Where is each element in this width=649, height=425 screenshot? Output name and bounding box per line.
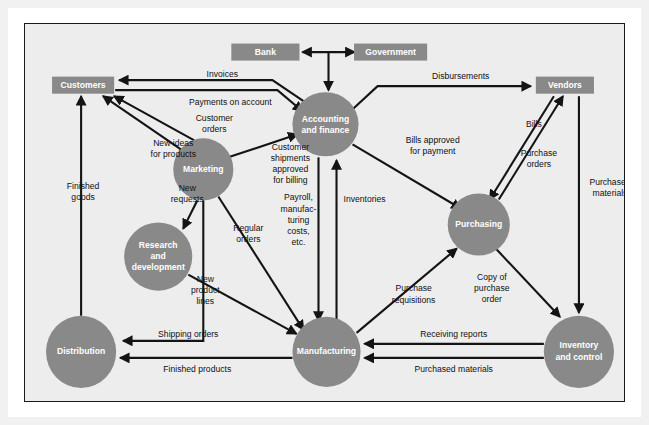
edge-label-disbursements: Disbursements: [432, 71, 489, 81]
edge-label-customer-orders: Customerorders: [196, 113, 233, 134]
edge-label-purchase-requisitions: Purchaserequisitions: [392, 283, 436, 304]
node-distribution-label: Distribution: [57, 346, 105, 356]
flow-customers-marketing-orders: [114, 96, 194, 140]
node-inventory-label-line1: Inventory: [560, 340, 599, 350]
edge-label-inventories-line-1: Inventories: [344, 194, 386, 204]
diagram-canvas: Bank Government Customers Vendors Accoun…: [25, 24, 624, 401]
node-bank-label: Bank: [255, 47, 276, 57]
screenshot-page: Bank Government Customers Vendors Accoun…: [0, 0, 649, 425]
node-purchasing-label: Purchasing: [455, 219, 502, 229]
edge-label-invoices: Invoices: [207, 69, 239, 79]
flow-marketing-rnd-requests: [183, 200, 197, 228]
edge-label-disbursements-line-1: Disbursements: [432, 71, 489, 81]
edge-label-customer-shipments-line-1: Customer: [272, 142, 309, 152]
edge-label-regular-orders-line-2: orders: [236, 234, 260, 244]
node-government[interactable]: Government: [354, 44, 427, 61]
edge-label-copy-of-purchase-order-line-2: purchase: [474, 283, 510, 293]
edge-label-purchase-orders-line-2: orders: [527, 159, 551, 169]
edge-label-customer-shipments-line-2: shipments: [271, 153, 310, 163]
node-manufacturing-label: Manufacturing: [297, 346, 356, 356]
edge-label-finished-goods: Finishedgoods: [67, 181, 100, 202]
edge-label-payroll-costs-line-2: manufac-: [281, 204, 317, 214]
edge-label-purchase-requisitions-line-2: requisitions: [392, 295, 436, 305]
edge-label-regular-orders: Regularorders: [233, 223, 263, 244]
edge-label-customer-orders-line-2: orders: [202, 124, 226, 134]
edge-label-payroll-costs-line-1: Payroll,: [284, 192, 313, 202]
edge-label-receiving-reports-line-1: Receiving reports: [420, 329, 487, 339]
edge-label-finished-products-line-1: Finished products: [163, 364, 231, 374]
node-accounting-label-line1: Accounting: [302, 114, 349, 124]
node-customers[interactable]: Customers: [52, 77, 114, 94]
edge-label-copy-of-purchase-order: Copy ofpurchaseorder: [474, 272, 510, 304]
edge-label-purchased-materials-top-line-2: materials: [593, 188, 624, 198]
edge-label-copy-of-purchase-order-line-3: order: [482, 294, 502, 304]
edge-label-payments-on-account: Payments on account: [189, 97, 272, 107]
edge-label-customer-shipments-line-4: for billing: [273, 175, 308, 185]
edge-label-customer-shipments: Customershipmentsapprovedfor billing: [271, 142, 310, 186]
edge-label-new-product-lines-line-2: product: [191, 285, 220, 295]
node-marketing-label: Marketing: [183, 164, 224, 174]
edge-label-payroll-costs-line-4: costs,: [287, 226, 309, 236]
edge-label-payroll-costs-line-3: turing: [288, 215, 310, 225]
node-purchasing[interactable]: Purchasing: [448, 193, 510, 255]
node-inventory-label-line2: and control: [555, 352, 602, 362]
flow-accounting-vendors-disbursements: [352, 86, 531, 110]
node-manufacturing[interactable]: Manufacturing: [292, 317, 360, 387]
information-flow-diagram: Bank Government Customers Vendors Accoun…: [24, 23, 625, 402]
edge-label-customer-orders-line-1: Customer: [196, 113, 233, 123]
edge-label-payments-on-account-line-1: Payments on account: [189, 97, 272, 107]
edge-label-new-product-lines-line-3: lines: [196, 296, 214, 306]
node-rnd-label-line1: Research: [139, 240, 178, 250]
edge-label-purchase-orders-line-1: Purchase: [521, 148, 558, 158]
edge-label-purchased-materials-bottom: Purchased materials: [414, 364, 492, 374]
edge-label-finished-goods-line-1: Finished: [67, 181, 100, 191]
edge-label-purchase-orders: Purchaseorders: [521, 148, 558, 169]
edge-label-new-ideas-for-products-line-1: New ideas: [153, 138, 193, 148]
edge-label-shipping-orders: Shipping orders: [158, 329, 218, 339]
node-inventory-and-control[interactable]: Inventory and control: [544, 316, 614, 388]
node-rnd-label-line2: and: [151, 251, 166, 261]
edge-label-finished-goods-line-2: goods: [71, 192, 94, 202]
edge-label-bills: Bills: [526, 119, 542, 129]
node-research-and-development[interactable]: Research and development: [124, 223, 192, 291]
node-accounting-label-line2: and finance: [302, 125, 350, 135]
edge-label-purchased-materials-top: Purchasedmaterials: [589, 177, 624, 198]
edge-label-invoices-line-1: Invoices: [207, 69, 239, 79]
edge-label-regular-orders-line-1: Regular: [233, 223, 263, 233]
node-customers-label: Customers: [61, 80, 106, 90]
node-distribution[interactable]: Distribution: [46, 316, 116, 388]
edge-label-payroll-costs-line-5: etc.: [292, 237, 306, 247]
edge-label-shipping-orders-line-1: Shipping orders: [158, 329, 218, 339]
edge-label-new-ideas-for-products: New ideasfor products: [151, 138, 196, 159]
edge-label-purchased-materials-top-line-1: Purchased: [589, 177, 624, 187]
edge-label-bills-approved-for-payment: Bills approvedfor payment: [406, 135, 460, 156]
node-government-label: Government: [365, 47, 416, 57]
edge-label-purchased-materials-bottom-line-1: Purchased materials: [414, 364, 492, 374]
node-vendors-label: Vendors: [548, 80, 582, 90]
edge-label-new-product-lines-line-1: New: [197, 274, 215, 284]
edge-label-copy-of-purchase-order-line-1: Copy of: [477, 272, 507, 282]
edge-label-bills-approved-for-payment-line-1: Bills approved: [406, 135, 460, 145]
node-rnd-label-line3: development: [132, 262, 185, 272]
edge-label-purchase-requisitions-line-1: Purchase: [395, 283, 432, 293]
node-bank[interactable]: Bank: [231, 44, 299, 61]
edge-label-new-ideas-for-products-line-2: for products: [151, 149, 196, 159]
edge-label-inventories: Inventories: [344, 194, 386, 204]
edge-label-payroll-costs: Payroll,manufac-turingcosts,etc.: [281, 192, 317, 247]
edge-label-new-requests-line-2: requests: [171, 194, 204, 204]
edge-label-finished-products: Finished products: [163, 364, 231, 374]
edge-label-customer-shipments-line-3: approved: [272, 164, 308, 174]
edge-label-bills-line-1: Bills: [526, 119, 542, 129]
edge-label-receiving-reports: Receiving reports: [420, 329, 487, 339]
edge-label-bills-approved-for-payment-line-2: for payment: [410, 146, 456, 156]
node-vendors[interactable]: Vendors: [536, 77, 594, 94]
edge-label-new-requests-line-1: New: [179, 183, 197, 193]
